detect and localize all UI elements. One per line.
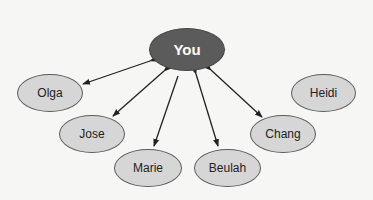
node-label: Marie (133, 161, 163, 175)
node-marie: Marie (114, 149, 182, 187)
arrow-you-olga (83, 61, 150, 84)
node-you: You (149, 28, 225, 71)
node-olga: Olga (17, 74, 83, 112)
node-label: Chang (265, 127, 300, 141)
node-label: Jose (79, 127, 104, 141)
node-label: You (173, 41, 200, 58)
node-jose: Jose (59, 115, 125, 153)
arrow-you-chang (211, 70, 262, 117)
node-chang: Chang (250, 115, 316, 153)
node-heidi: Heidi (291, 74, 356, 112)
node-label: Beulah (209, 161, 246, 175)
arrow-you-jose (113, 71, 164, 116)
arrow-you-marie (154, 76, 178, 146)
node-label: Olga (37, 86, 62, 100)
node-beulah: Beulah (194, 149, 261, 187)
node-label: Heidi (310, 86, 337, 100)
arrow-you-beulah (196, 74, 218, 146)
